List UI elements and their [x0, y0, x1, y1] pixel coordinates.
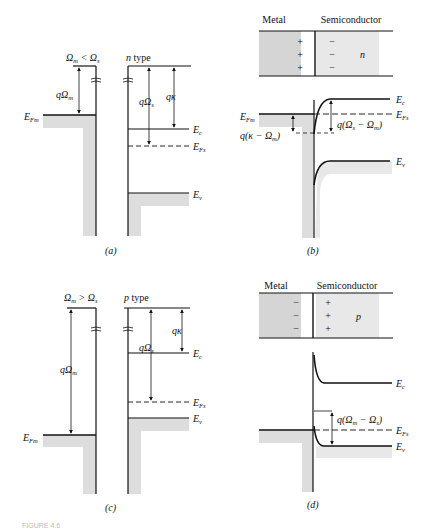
panel-b-efm-label: EFm — [239, 111, 255, 123]
panel-c-q-omega-m: qΩm — [60, 364, 77, 376]
panel-d-semi-label: Semiconductor — [317, 280, 378, 291]
panel-d-efs-label: EFs — [395, 425, 409, 437]
panel-d-ec-label: Ec — [395, 378, 405, 390]
figure-label-partial: FIGURE 4.6 — [22, 522, 60, 529]
svg-text:+: + — [325, 310, 331, 321]
panel-c-efs-label: EFs — [192, 397, 206, 409]
panel-d-metal-label: Metal — [264, 280, 288, 291]
panel-a-caption: (a) — [105, 245, 117, 257]
band-diagram-figure: Ωm < Ωs n type qΩm EFm qΩs qκ Ec EFs Ev … — [0, 0, 428, 530]
panel-c-q-omega-s: qΩs — [139, 342, 154, 354]
panel-d-ev-label: Ev — [395, 441, 405, 453]
panel-c-ev-label: Ev — [192, 413, 202, 425]
svg-text:−: − — [329, 36, 335, 47]
panel-c: Ωm > Ωs p type qΩm EFm qΩs qκ Ec EFs Ev … — [22, 292, 206, 514]
panel-b-ec-label: Ec — [395, 94, 405, 106]
svg-text:−: − — [329, 49, 335, 60]
panel-b-efs-label: EFs — [395, 109, 409, 121]
panel-a-efm-label: EFm — [23, 111, 39, 123]
panel-a-semi-header: n type — [126, 52, 151, 63]
panel-b-semi-label: Semiconductor — [321, 14, 382, 25]
panel-c-efm-label: EFm — [22, 432, 38, 444]
panel-c-semi-header: p type — [123, 292, 149, 303]
panel-c-q-chi: qκ — [172, 325, 182, 336]
panel-a-q-omega-m: qΩm — [56, 89, 73, 101]
svg-text:+: + — [297, 36, 303, 47]
panel-b-metal-label: Metal — [262, 14, 286, 25]
panel-c-metal-header: Ωm > Ωs — [64, 292, 98, 304]
panel-d-caption: (d) — [307, 499, 319, 511]
panel-a-q-omega-s: qΩs — [139, 96, 154, 108]
panel-b-caption: (b) — [307, 245, 319, 257]
panel-c-ec-label: Ec — [192, 348, 202, 360]
panel-a-efs-label: EFs — [192, 141, 206, 153]
panel-a-q-chi: qκ — [166, 91, 176, 102]
svg-text:−: − — [293, 297, 299, 308]
panel-d-type: p — [355, 311, 361, 322]
svg-text:+: + — [325, 323, 331, 334]
panel-d-built-in-label: q(Ωm − Ωs) — [337, 414, 383, 426]
panel-b-built-in-label: q(Ωs − Ωm) — [337, 119, 383, 131]
panel-b: Metal Semiconductor + + + − − − n EFm q(… — [239, 14, 409, 257]
svg-text:+: + — [297, 62, 303, 73]
svg-text:+: + — [297, 49, 303, 60]
panel-c-caption: (c) — [105, 502, 117, 514]
svg-text:−: − — [293, 323, 299, 334]
panel-a: Ωm < Ωs n type qΩm EFm qΩs qκ Ec EFs Ev … — [23, 52, 206, 257]
svg-text:−: − — [329, 62, 335, 73]
panel-a-metal-header: Ωm < Ωs — [66, 52, 100, 64]
svg-text:−: − — [293, 310, 299, 321]
panel-d: Metal Semiconductor − − − + + + p q(Ωm −… — [259, 280, 409, 511]
svg-text:+: + — [325, 297, 331, 308]
panel-a-ev-label: Ev — [192, 189, 202, 201]
panel-b-type: n — [360, 49, 365, 60]
panel-b-barrier-label: q(κ − Ωm) — [240, 130, 281, 142]
panel-b-ev-label: Ev — [395, 156, 405, 168]
panel-a-ec-label: Ec — [192, 124, 202, 136]
